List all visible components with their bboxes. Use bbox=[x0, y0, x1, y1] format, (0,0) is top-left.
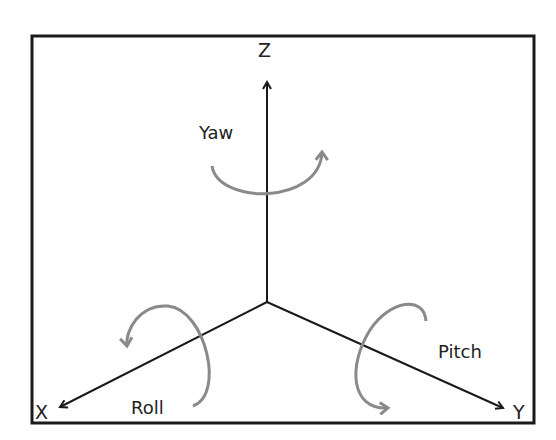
x-axis bbox=[60, 302, 267, 407]
pitch-rotation-arrow bbox=[356, 304, 426, 408]
yaw-label: Yaw bbox=[198, 122, 233, 143]
y-axis-label: Y bbox=[512, 401, 525, 423]
roll-label: Roll bbox=[131, 397, 164, 418]
roll-rotation-arrow bbox=[127, 306, 209, 406]
x-axis-label: X bbox=[35, 401, 48, 423]
pitch-label: Pitch bbox=[438, 341, 482, 362]
diagram-border bbox=[32, 36, 534, 423]
z-axis-label: Z bbox=[258, 39, 271, 61]
axes-diagram: Z X Y Yaw Roll Pitch bbox=[0, 0, 556, 440]
